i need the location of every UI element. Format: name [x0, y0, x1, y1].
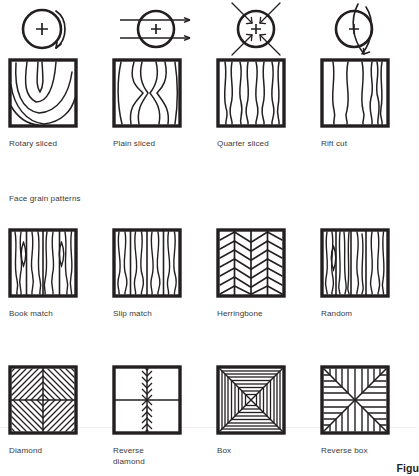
- geometric-pattern-row: Diamond: [0, 365, 417, 467]
- cut-method-rotary: Rotary sliced: [0, 0, 104, 149]
- face-pattern-herringbone: Herringbone: [208, 228, 312, 319]
- pattern-herringbone-icon: [216, 228, 286, 298]
- cut-method-label: Rotary sliced: [0, 134, 57, 149]
- face-pattern-random: Random: [312, 228, 416, 319]
- veneer-panel-quarter: [208, 58, 312, 134]
- cut-methods-row: Rotary sliced: [0, 0, 417, 149]
- pattern-random-icon: [320, 228, 390, 298]
- pattern-reverse-box-icon: [320, 365, 390, 435]
- cut-method-plain: Plain sliced: [104, 0, 208, 149]
- veneer-rift-straight-grain-icon: [320, 58, 390, 128]
- veneer-panel-rotary: [0, 58, 104, 134]
- veneer-rotary-cathedral-icon: [8, 58, 78, 128]
- log-plain-parallel-arrows-icon: [114, 1, 206, 57]
- log-diagram-rift: [312, 0, 416, 58]
- face-pattern-label: Herringbone: [208, 304, 263, 319]
- veneer-panel-random: [312, 228, 416, 304]
- face-pattern-label: Random: [312, 304, 352, 319]
- log-diagram-quarter: [208, 0, 312, 58]
- pattern-diamond-icon: [8, 365, 78, 435]
- cut-method-label: Quarter sliced: [208, 134, 269, 149]
- veneer-panel-diamond: [0, 365, 104, 441]
- log-diagram-rotary: [0, 0, 104, 58]
- veneer-panel-herringbone: [208, 228, 312, 304]
- face-pattern-label: Book match: [0, 304, 53, 319]
- geometric-pattern-reverse-diamond: Reverse diamond: [104, 365, 208, 467]
- veneer-panel-book-match: [0, 228, 104, 304]
- log-quarter-radial-arrows-icon: [218, 1, 304, 57]
- log-diagram-plain: [104, 0, 208, 58]
- geometric-pattern-label: Reverse diamond: [104, 441, 145, 467]
- face-pattern-slip-match: Slip match: [104, 228, 208, 319]
- cut-method-label: Plain sliced: [104, 134, 155, 149]
- log-rift-offset-arc-icon: [322, 1, 408, 57]
- veneer-plain-x-figure-icon: [112, 58, 182, 128]
- geometric-pattern-label: Diamond: [0, 441, 42, 456]
- geometric-pattern-diamond: Diamond: [0, 365, 104, 467]
- pattern-reverse-diamond-icon: [112, 365, 182, 435]
- veneer-quarter-straight-grain-icon: [216, 58, 286, 128]
- veneer-panel-slip-match: [104, 228, 208, 304]
- cut-method-label: Rift cut: [312, 134, 347, 149]
- veneer-panel-box: [208, 365, 312, 441]
- log-rotary-arc-icon: [10, 1, 96, 57]
- pattern-slip-match-icon: [112, 228, 182, 298]
- cut-method-rift: Rift cut: [312, 0, 416, 149]
- face-grain-row: Book match: [0, 228, 417, 319]
- veneer-panel-reverse-diamond: [104, 365, 208, 441]
- geometric-pattern-reverse-box: Reverse box: [312, 365, 416, 467]
- face-pattern-book-match: Book match: [0, 228, 104, 319]
- geometric-pattern-box: Box: [208, 365, 312, 467]
- section-label-face-grain: Face grain patterns: [9, 194, 81, 203]
- veneer-panel-plain: [104, 58, 208, 134]
- veneer-panel-reverse-box: [312, 365, 416, 441]
- face-pattern-label: Slip match: [104, 304, 152, 319]
- pattern-box-icon: [216, 365, 286, 435]
- cut-method-quarter: Quarter sliced: [208, 0, 312, 149]
- pattern-book-match-icon: [8, 228, 78, 298]
- figure-caption: Figu: [396, 462, 419, 474]
- veneer-panel-rift: [312, 58, 416, 134]
- geometric-pattern-label: Box: [208, 441, 231, 456]
- geometric-pattern-label: Reverse box: [312, 441, 368, 456]
